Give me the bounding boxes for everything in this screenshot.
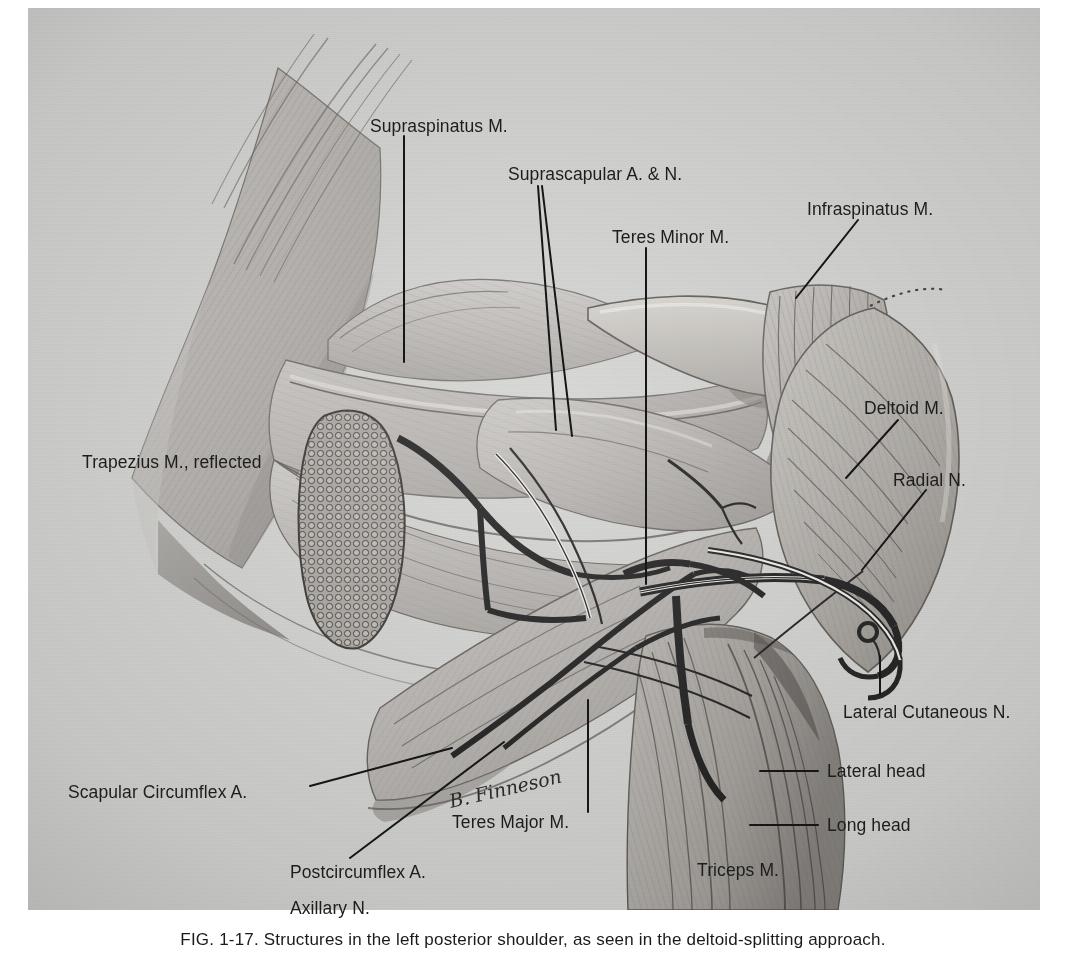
figure-number: FIG. 1-17. xyxy=(180,930,259,949)
label-scapular-circumflex: Scapular Circumflex A. xyxy=(68,782,247,802)
figure-caption: FIG. 1-17. Structures in the left poster… xyxy=(0,930,1066,956)
label-lateral-cutaneous: Lateral Cutaneous N. xyxy=(843,702,1010,722)
label-supraspinatus: Supraspinatus M. xyxy=(370,116,508,136)
label-teres-major: Teres Major M. xyxy=(452,812,569,832)
label-axillary: Axillary N. xyxy=(290,898,370,918)
label-suprascapular: Suprascapular A. & N. xyxy=(508,164,682,184)
label-teres-minor: Teres Minor M. xyxy=(612,227,729,247)
label-radial-nerve: Radial N. xyxy=(893,470,966,490)
label-triceps: Triceps M. xyxy=(697,860,779,880)
figure-page: Supraspinatus M. Suprascapular A. & N. T… xyxy=(0,0,1066,956)
label-postcircumflex: Postcircumflex A. xyxy=(290,862,426,882)
label-lateral-head: Lateral head xyxy=(827,761,926,781)
label-long-head: Long head xyxy=(827,815,911,835)
adipose-fat-pad xyxy=(299,410,405,648)
label-deltoid: Deltoid M. xyxy=(864,398,944,418)
label-trapezius: Trapezius M., reflected xyxy=(82,452,262,472)
label-infraspinatus: Infraspinatus M. xyxy=(807,199,933,219)
figure-caption-text: Structures in the left posterior shoulde… xyxy=(264,930,886,949)
